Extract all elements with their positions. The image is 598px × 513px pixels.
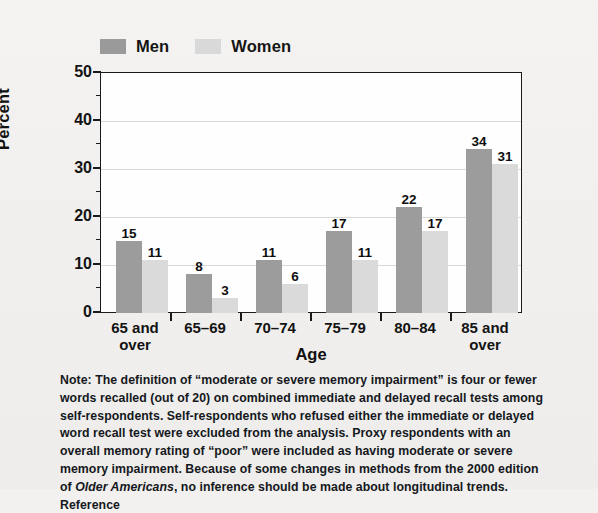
y-tick-label-40: 40 <box>52 112 92 128</box>
x-tick-label-70-74: 70–74 <box>242 320 308 337</box>
x-tick-label-75-79: 75–79 <box>312 320 378 337</box>
gridline-20 <box>101 217 521 218</box>
plot-area <box>100 72 522 313</box>
y-tick-label-30: 30 <box>52 160 92 176</box>
x-tick-label-65-69: 65–69 <box>172 320 238 337</box>
gridline-40 <box>101 121 521 122</box>
chart-legend: Men Women <box>100 34 291 58</box>
legend-entry-women: Women <box>195 38 291 55</box>
x-axis-title: Age <box>100 345 522 364</box>
note-part-1: Note: The definition of “moderate or sev… <box>60 373 543 494</box>
y-tick-label-20: 20 <box>52 208 92 224</box>
y-tick-label-0: 0 <box>52 304 92 320</box>
y-axis-title: Percent <box>0 88 13 150</box>
gridline-30 <box>101 169 521 170</box>
note-italic-title: Older Americans <box>75 480 174 494</box>
y-tick-label-50: 50 <box>52 64 92 80</box>
legend-label-men: Men <box>136 38 169 55</box>
legend-swatch-women-icon <box>195 39 221 54</box>
chart-note: Note: The definition of “moderate or sev… <box>60 372 552 513</box>
legend-swatch-men-icon <box>100 39 126 54</box>
legend-entry-men: Men <box>100 38 169 55</box>
gridline-10 <box>101 265 521 266</box>
y-tick-label-10: 10 <box>52 256 92 272</box>
legend-label-women: Women <box>231 38 291 55</box>
x-tick-label-80-84: 80–84 <box>382 320 448 337</box>
